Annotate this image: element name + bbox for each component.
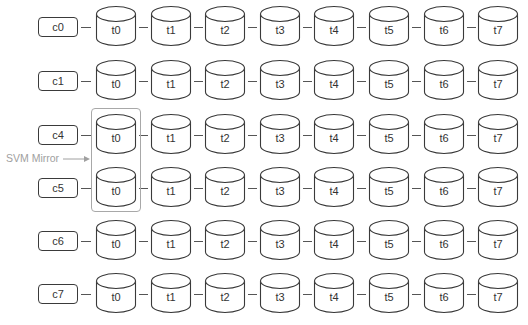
tier-label: t1 (150, 78, 192, 90)
tier-label: t4 (313, 24, 355, 36)
connector-line (303, 135, 312, 136)
tier-label: t6 (423, 185, 465, 197)
tier-label: t6 (423, 132, 465, 144)
tier-cylinder-t1: t1 (150, 59, 192, 101)
tier-cylinder-t5: t5 (368, 219, 410, 261)
connector-line (412, 241, 421, 242)
tier-cylinder-t7: t7 (477, 5, 519, 47)
tier-label: t6 (423, 78, 465, 90)
tier-cylinder-t3: t3 (259, 59, 301, 101)
tier-label: t6 (423, 291, 465, 303)
tier-cylinder-t5: t5 (368, 113, 410, 155)
tier-label: t4 (313, 291, 355, 303)
arrow-right-icon (63, 155, 91, 163)
connector-line (303, 27, 312, 28)
tier-label: t7 (477, 78, 519, 90)
tier-cylinder-t3: t3 (259, 272, 301, 314)
tier-cylinder-t5: t5 (368, 5, 410, 47)
tier-label: t7 (477, 24, 519, 36)
tier-label: t1 (150, 238, 192, 250)
tier-cylinder-t1: t1 (150, 113, 192, 155)
tier-cylinder-t4: t4 (313, 272, 355, 314)
tier-cylinder-t6: t6 (423, 272, 465, 314)
tier-label: t1 (150, 291, 192, 303)
client-node-c7: c7 (38, 284, 78, 304)
connector-line (412, 81, 421, 82)
connector-line (248, 241, 257, 242)
tier-label: t4 (313, 238, 355, 250)
tier-label: t5 (368, 291, 410, 303)
tier-label: t4 (313, 132, 355, 144)
connector-line (412, 135, 421, 136)
client-node-c4: c4 (38, 125, 78, 145)
tier-label: t5 (368, 78, 410, 90)
connector-line (194, 241, 203, 242)
tier-cylinder-t7: t7 (477, 166, 519, 208)
connector-line (303, 294, 312, 295)
tier-label: t3 (259, 78, 301, 90)
tier-label: t2 (204, 291, 246, 303)
tier-label: t1 (150, 185, 192, 197)
tier-label: t0 (95, 24, 137, 36)
connector-line (194, 81, 203, 82)
connector-line (357, 135, 366, 136)
connector-line (248, 188, 257, 189)
tier-cylinder-t7: t7 (477, 59, 519, 101)
tier-cylinder-t7: t7 (477, 272, 519, 314)
tier-cylinder-t2: t2 (204, 5, 246, 47)
tier-cylinder-t1: t1 (150, 5, 192, 47)
connector-line (194, 188, 203, 189)
tier-label: t3 (259, 291, 301, 303)
connector-line (248, 294, 257, 295)
connector-line (194, 27, 203, 28)
tier-label: t2 (204, 238, 246, 250)
tier-label: t2 (204, 78, 246, 90)
tier-label: t3 (259, 238, 301, 250)
tier-label: t3 (259, 185, 301, 197)
tier-label: t6 (423, 238, 465, 250)
connector-line (81, 27, 91, 28)
connector-line (467, 81, 476, 82)
tier-label: t2 (204, 24, 246, 36)
tier-cylinder-t2: t2 (204, 113, 246, 155)
tier-label: t5 (368, 24, 410, 36)
connector-line (357, 241, 366, 242)
tier-cylinder-t6: t6 (423, 113, 465, 155)
connector-line (81, 294, 91, 295)
tier-cylinder-t0: t0 (95, 5, 137, 47)
client-node-c5: c5 (38, 178, 78, 198)
tier-label: t0 (95, 78, 137, 90)
svm-mirror-group-box (91, 108, 141, 212)
tier-label: t1 (150, 132, 192, 144)
tier-cylinder-t5: t5 (368, 272, 410, 314)
connector-line (303, 81, 312, 82)
tier-cylinder-t4: t4 (313, 113, 355, 155)
connector-line (194, 294, 203, 295)
tier-label: t5 (368, 238, 410, 250)
tier-cylinder-t5: t5 (368, 59, 410, 101)
tier-cylinder-t4: t4 (313, 219, 355, 261)
diagram-canvas: c0t0t1t2t3t4t5t6t7c1t0t1t2t3t4t5t6t7c4t0… (0, 0, 528, 325)
tier-cylinder-t0: t0 (95, 219, 137, 261)
connector-line (357, 294, 366, 295)
tier-label: t0 (95, 238, 137, 250)
connector-line (139, 27, 148, 28)
tier-cylinder-t4: t4 (313, 5, 355, 47)
tier-label: t3 (259, 132, 301, 144)
svm-mirror-label: SVM Mirror (6, 152, 59, 164)
tier-label: t7 (477, 291, 519, 303)
tier-cylinder-t6: t6 (423, 5, 465, 47)
connector-line (467, 135, 476, 136)
connector-line (467, 188, 476, 189)
connector-line (81, 81, 91, 82)
tier-label: t3 (259, 24, 301, 36)
connector-line (248, 81, 257, 82)
connector-line (412, 27, 421, 28)
connector-line (357, 81, 366, 82)
client-node-c0: c0 (38, 17, 78, 37)
tier-cylinder-t0: t0 (95, 272, 137, 314)
connector-line (139, 294, 148, 295)
tier-cylinder-t0: t0 (95, 59, 137, 101)
tier-label: t7 (477, 238, 519, 250)
tier-label: t2 (204, 185, 246, 197)
